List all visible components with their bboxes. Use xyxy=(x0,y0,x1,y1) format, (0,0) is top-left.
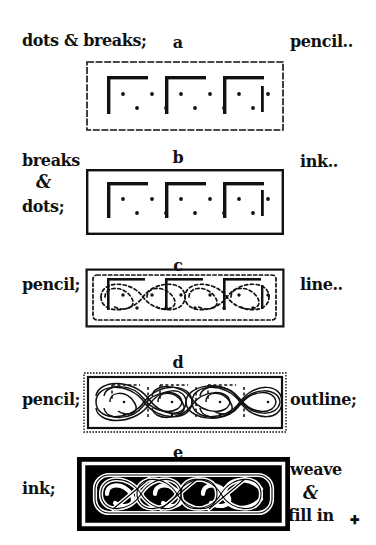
step-c-left-label: pencil; xyxy=(22,276,80,293)
step-d-right-label: outline; xyxy=(290,391,356,408)
step-d-left-label: pencil; xyxy=(22,391,80,408)
step-a-diagram xyxy=(85,60,285,132)
step-b-letter: b xyxy=(168,148,188,167)
step-b-border xyxy=(87,170,283,234)
step-a-letter: a xyxy=(168,33,188,52)
step-e-right-label-line-1: weave xyxy=(290,461,342,478)
step-a-border xyxy=(87,62,283,130)
step-e-right-label-line-2: & xyxy=(303,484,318,502)
step-e-diagram xyxy=(77,457,290,531)
step-d-border-dotted xyxy=(84,373,286,432)
step-b-left-label-line-3: dots; xyxy=(22,198,64,215)
step-a-right-label: pencil.. xyxy=(290,33,353,50)
step-c-right-label: line.. xyxy=(300,276,343,293)
step-d-diagram xyxy=(82,371,288,434)
step-b-left-label-line-1: breaks xyxy=(22,152,80,169)
step-c-pencil-centre-line xyxy=(93,275,276,320)
step-d-letter: d xyxy=(168,353,188,372)
step-b-left-label-line-2: & xyxy=(36,173,51,191)
step-c-diagram xyxy=(85,268,285,328)
step-e-right-label-line-3: fill in xyxy=(288,507,334,524)
step-b-diagram xyxy=(85,168,285,236)
step-e-left-label: ink; xyxy=(22,480,55,497)
step-a-left-label: dots & breaks; xyxy=(22,32,147,49)
step-b-right-label: ink.. xyxy=(300,153,338,170)
step-e-right-label-mark: ✚ xyxy=(350,514,359,526)
